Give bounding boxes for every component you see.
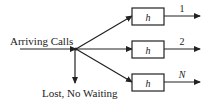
server-2: h 2: [132, 36, 200, 58]
server-n: h N: [132, 69, 200, 91]
branch-arrow-1: [76, 16, 132, 49]
output-label-2: 2: [180, 36, 185, 47]
server-1: h 1: [132, 3, 200, 25]
server-box-label: h: [146, 78, 151, 89]
lost-label: Lost, No Waiting: [42, 87, 118, 99]
server-box-label: h: [146, 12, 151, 23]
output-label-n: N: [178, 69, 187, 80]
input-label: Arriving Calls: [10, 35, 73, 47]
server-box-label: h: [146, 45, 151, 56]
branch-arrow-n: [76, 49, 132, 82]
loss-system-diagram: Arriving Calls Lost, No Waiting h 1 h 2 …: [0, 0, 215, 105]
output-label-1: 1: [180, 3, 185, 14]
